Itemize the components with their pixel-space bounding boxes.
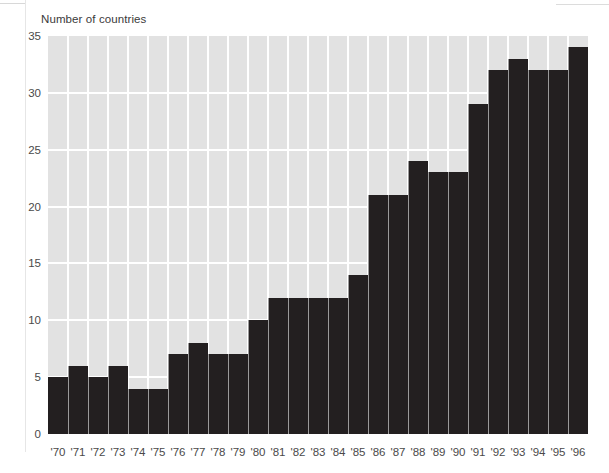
x-tick-label: '88 xyxy=(411,446,426,458)
x-tick-label: '86 xyxy=(371,446,386,458)
x-tick-label: '70 xyxy=(51,446,66,458)
x-tick-label: '87 xyxy=(391,446,406,458)
y-tick-label: 30 xyxy=(28,87,41,99)
bar-separator xyxy=(368,36,369,434)
x-tick-label: '93 xyxy=(511,446,526,458)
bar xyxy=(488,70,508,434)
bar-separator xyxy=(408,36,409,434)
bar-separator xyxy=(228,36,229,434)
x-tick-label: '79 xyxy=(231,446,246,458)
bar xyxy=(548,70,568,434)
bar-separator xyxy=(128,36,129,434)
bar xyxy=(328,298,348,434)
bar-separator xyxy=(308,36,309,434)
x-tick-label: '74 xyxy=(131,446,146,458)
bar-separator xyxy=(468,36,469,434)
x-tick-label: '83 xyxy=(311,446,326,458)
x-tick-label: '85 xyxy=(351,446,366,458)
bar xyxy=(208,354,228,434)
bar-separator xyxy=(208,36,209,434)
y-tick-label: 20 xyxy=(28,201,41,213)
x-tick-label: '91 xyxy=(471,446,486,458)
x-tick-label: '82 xyxy=(291,446,306,458)
scan-rule-right xyxy=(556,4,609,5)
bar xyxy=(88,377,108,434)
bar xyxy=(48,377,68,434)
x-tick-label: '78 xyxy=(211,446,226,458)
y-tick-label: 0 xyxy=(35,428,41,440)
plot-area xyxy=(48,36,588,434)
bar-separator xyxy=(168,36,169,434)
x-tick-label: '84 xyxy=(331,446,346,458)
y-axis: 05101520253035 xyxy=(0,0,48,473)
bar xyxy=(508,59,528,434)
bar-separator xyxy=(68,36,69,434)
x-tick-label: '96 xyxy=(571,446,586,458)
x-tick-label: '73 xyxy=(111,446,126,458)
bar-separator xyxy=(508,36,509,434)
bar-separator xyxy=(148,36,149,434)
bars-layer xyxy=(48,36,588,434)
x-tick-label: '90 xyxy=(451,446,466,458)
bar-separator xyxy=(548,36,549,434)
x-axis: '70'71'72'73'74'75'76'77'78'79'80'81'82'… xyxy=(48,434,588,473)
bar xyxy=(68,366,88,434)
x-tick-label: '76 xyxy=(171,446,186,458)
bar xyxy=(248,320,268,434)
x-tick-label: '95 xyxy=(551,446,566,458)
bar-separator xyxy=(288,36,289,434)
x-tick-label: '72 xyxy=(91,446,106,458)
bar-separator xyxy=(188,36,189,434)
bar-separator xyxy=(568,36,569,434)
chart-title: Number of countries xyxy=(41,13,146,25)
x-tick-label: '80 xyxy=(251,446,266,458)
bar-separator xyxy=(88,36,89,434)
bar xyxy=(448,172,468,434)
bar-separator xyxy=(448,36,449,434)
bar xyxy=(388,195,408,434)
bar xyxy=(308,298,328,434)
bar-separator xyxy=(248,36,249,434)
bar xyxy=(128,389,148,434)
bar xyxy=(408,161,428,434)
x-tick-label: '94 xyxy=(531,446,546,458)
y-tick-label: 25 xyxy=(28,144,41,156)
x-tick-label: '81 xyxy=(271,446,286,458)
y-tick-label: 15 xyxy=(28,257,41,269)
y-tick-label: 35 xyxy=(28,30,41,42)
y-tick-label: 10 xyxy=(28,314,41,326)
bar xyxy=(568,47,588,434)
bar-separator xyxy=(528,36,529,434)
bar-separator xyxy=(108,36,109,434)
x-tick-label: '71 xyxy=(71,446,86,458)
bar-separator xyxy=(348,36,349,434)
bar xyxy=(348,275,368,434)
x-tick-label: '75 xyxy=(151,446,166,458)
bar xyxy=(188,343,208,434)
bar xyxy=(428,172,448,434)
bar-separator xyxy=(328,36,329,434)
bar xyxy=(528,70,548,434)
bar-separator xyxy=(388,36,389,434)
bar xyxy=(368,195,388,434)
bar xyxy=(168,354,188,434)
bar-separator xyxy=(428,36,429,434)
bar xyxy=(288,298,308,434)
x-tick-label: '77 xyxy=(191,446,206,458)
bar-separator xyxy=(488,36,489,434)
y-tick-label: 5 xyxy=(35,371,41,383)
bar xyxy=(268,298,288,434)
bar xyxy=(468,104,488,434)
bar xyxy=(108,366,128,434)
bar xyxy=(228,354,248,434)
bar xyxy=(148,389,168,434)
x-tick-label: '92 xyxy=(491,446,506,458)
x-tick-label: '89 xyxy=(431,446,446,458)
chart-figure: Number of countries 05101520253035 '70'7… xyxy=(0,0,609,473)
bar-separator xyxy=(268,36,269,434)
